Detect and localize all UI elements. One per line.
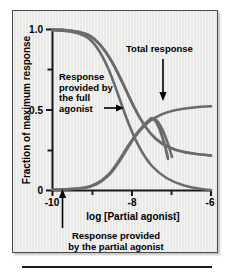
annotation-full-agonist-line-4: agonist xyxy=(59,103,94,114)
curve-partial-agonist-main xyxy=(53,119,168,189)
dose-response-plot: 1.0 0.5 0 -10 -8 -6 Fraction of maximum … xyxy=(0,0,232,277)
x-tick-label--6: -6 xyxy=(206,197,215,208)
figure-root: 1.0 0.5 0 -10 -8 -6 Fraction of maximum … xyxy=(0,0,232,277)
y-tick-label-0: 0 xyxy=(37,185,43,196)
annotation-full-agonist: Response provided by the full agonist xyxy=(59,71,124,114)
y-axis-title: Fraction of maximum response xyxy=(21,35,32,184)
curve-partial-agonist xyxy=(53,118,173,190)
annotation-total-response-line-1: Total response xyxy=(126,43,193,54)
x-axis-title: log [Partial agonist] xyxy=(86,211,179,222)
annotation-partial-agonist-line-1: Response provided xyxy=(72,230,160,241)
annotation-partial-agonist-line-2: by the partial agonist xyxy=(68,241,164,252)
bottom-rule-divider xyxy=(22,266,212,268)
x-tick-label--10: -10 xyxy=(45,197,60,208)
y-tick-label-1.0: 1.0 xyxy=(29,24,43,35)
x-tick-label--8: -8 xyxy=(128,197,137,208)
annotation-total-response-arrow-head xyxy=(159,92,166,101)
annotation-full-agonist-line-1: Response xyxy=(59,71,104,82)
annotation-full-agonist-line-3: the full xyxy=(59,92,90,103)
annotation-total-response: Total response xyxy=(126,43,193,101)
annotation-full-agonist-line-2: provided by xyxy=(59,82,114,93)
curve-partial-agonist-clean xyxy=(53,106,212,190)
